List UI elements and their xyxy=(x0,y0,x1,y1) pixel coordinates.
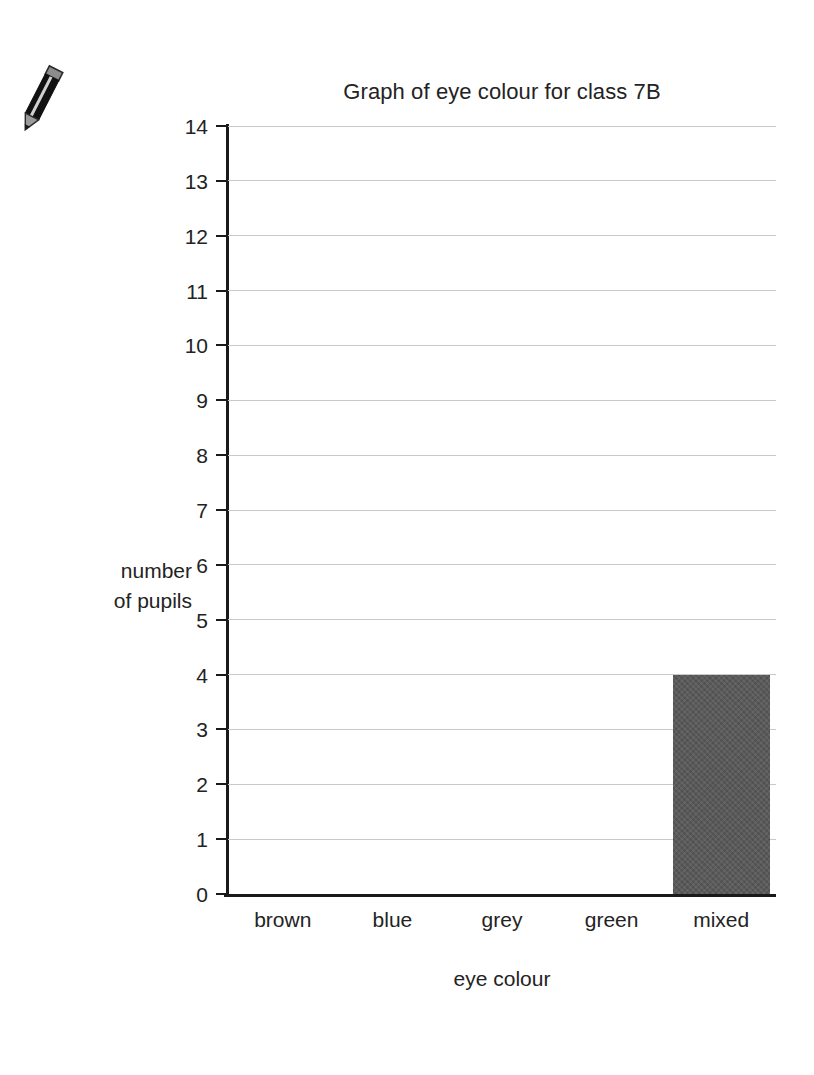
x-axis-label-green: green xyxy=(557,908,667,932)
gridline xyxy=(228,619,776,620)
y-axis-tick-label: 2 xyxy=(196,774,208,795)
y-axis-tick-label: 9 xyxy=(196,390,208,411)
y-axis-tick xyxy=(216,180,228,182)
bar-mixed xyxy=(673,675,770,894)
y-axis-tick xyxy=(216,235,228,237)
gridline xyxy=(228,400,776,401)
gridline xyxy=(228,510,776,511)
gridline xyxy=(228,290,776,291)
y-axis-tick xyxy=(216,783,228,785)
y-axis-tick-label: 6 xyxy=(196,554,208,575)
x-axis-title: eye colour xyxy=(228,966,776,992)
y-axis-tick xyxy=(216,893,228,895)
y-axis-tick-label: 1 xyxy=(196,829,208,850)
y-axis-title-line2: of pupils xyxy=(24,586,192,616)
y-axis-tick-label: 0 xyxy=(196,884,208,905)
y-axis-tick xyxy=(216,838,228,840)
y-axis-tick xyxy=(216,454,228,456)
gridline xyxy=(228,345,776,346)
y-axis-tick xyxy=(216,728,228,730)
y-axis-tick-label: 13 xyxy=(185,170,208,191)
y-axis-tick xyxy=(216,399,228,401)
x-axis-label-blue: blue xyxy=(338,908,448,932)
gridline xyxy=(228,235,776,236)
gridline xyxy=(228,180,776,181)
y-axis-tick-label: 5 xyxy=(196,609,208,630)
gridline xyxy=(228,564,776,565)
y-axis-tick-label: 3 xyxy=(196,719,208,740)
x-axis-label-mixed: mixed xyxy=(666,908,776,932)
y-axis-tick-label: 7 xyxy=(196,500,208,521)
y-axis-title-line1: number xyxy=(24,556,192,586)
chart-page: Graph of eye colour for class 7B number … xyxy=(0,0,814,1075)
gridline xyxy=(228,126,776,127)
y-axis-tick-label: 14 xyxy=(185,116,208,137)
y-axis-tick xyxy=(216,125,228,127)
x-axis-label-grey: grey xyxy=(447,908,557,932)
y-axis-tick-label: 12 xyxy=(185,225,208,246)
y-axis-tick xyxy=(216,509,228,511)
y-axis-tick xyxy=(216,674,228,676)
chart-title: Graph of eye colour for class 7B xyxy=(228,78,776,106)
y-axis-tick xyxy=(216,564,228,566)
pencil-icon xyxy=(6,58,78,138)
y-axis-tick-label: 10 xyxy=(185,335,208,356)
y-axis-tick-label: 8 xyxy=(196,445,208,466)
x-axis-label-brown: brown xyxy=(228,908,338,932)
y-axis-title: number of pupils xyxy=(24,556,192,616)
y-axis-tick xyxy=(216,290,228,292)
x-axis-line xyxy=(224,894,776,897)
gridline xyxy=(228,455,776,456)
y-axis-tick-label: 11 xyxy=(186,280,208,301)
y-axis-tick xyxy=(216,344,228,346)
y-axis-tick xyxy=(216,619,228,621)
y-axis-tick-label: 4 xyxy=(196,664,208,685)
plot-area: 14131211109876543210brownbluegreygreenmi… xyxy=(228,126,776,894)
